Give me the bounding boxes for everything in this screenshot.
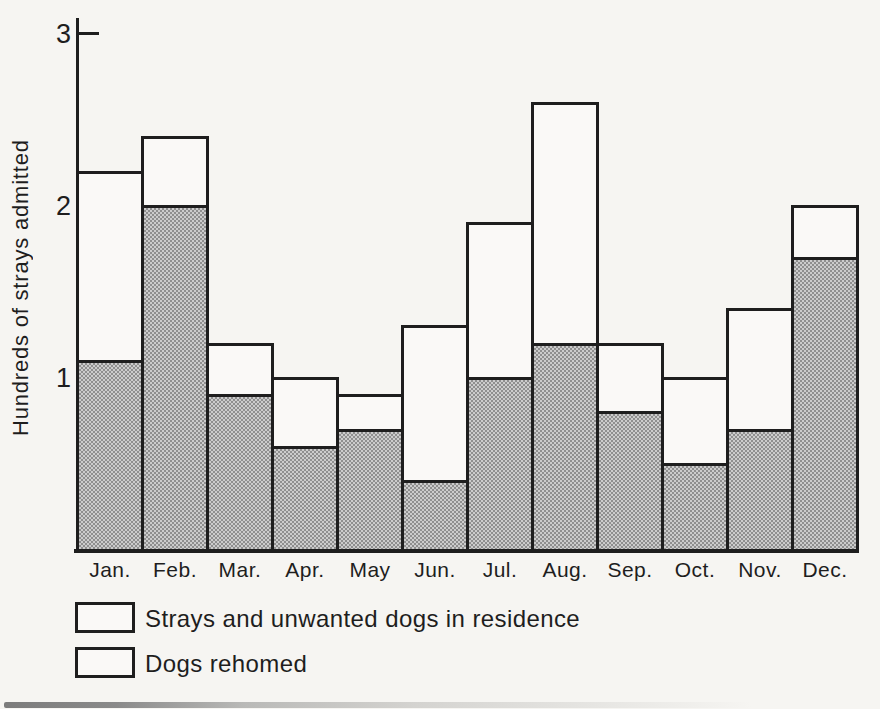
x-label-jun: Jun. (399, 558, 471, 582)
bar-column-aug (531, 102, 599, 552)
y-tick-label-2: 2 (28, 193, 72, 220)
bar-column-jul (466, 222, 534, 552)
bar-segment-rehomed-jun (404, 480, 466, 549)
bar-segment-rehomed-feb (144, 205, 206, 549)
x-label-aug: Aug. (529, 558, 601, 582)
bar-segment-rehomed-apr (274, 446, 336, 549)
bar-column-feb (141, 136, 209, 552)
bar-segment-rehomed-sep (599, 411, 661, 549)
legend-swatch-rehomed (75, 647, 135, 678)
x-label-nov: Nov. (724, 558, 796, 582)
x-label-feb: Feb. (139, 558, 211, 582)
x-label-may: May (334, 558, 406, 582)
x-label-dec: Dec. (789, 558, 861, 582)
x-label-jan: Jan. (74, 558, 146, 582)
bar-column-may (336, 394, 404, 552)
legend-swatch-residence (75, 602, 135, 633)
bar-segment-rehomed-mar (209, 394, 271, 549)
y-tick-3 (78, 32, 99, 35)
bar-column-apr (271, 377, 339, 552)
bar-column-nov (726, 308, 794, 552)
bar-column-mar (206, 343, 274, 552)
page-scan-artifact (4, 702, 752, 708)
bar-segment-rehomed-dec (794, 257, 856, 549)
x-axis-line (74, 549, 859, 553)
bar-column-dec (791, 205, 859, 552)
x-label-oct: Oct. (659, 558, 731, 582)
x-label-mar: Mar. (204, 558, 276, 582)
scanned-chart-page: Hundreds of strays admitted 123 Jan.Feb.… (0, 0, 880, 709)
bar-column-sep (596, 343, 664, 552)
bar-segment-rehomed-jul (469, 377, 531, 549)
x-label-sep: Sep. (594, 558, 666, 582)
bar-column-jan (76, 171, 144, 552)
y-axis-label: Hundreds of strays admitted (8, 100, 34, 475)
bar-segment-rehomed-aug (534, 343, 596, 549)
x-label-apr: Apr. (269, 558, 341, 582)
bar-segment-rehomed-may (339, 429, 401, 549)
bar-column-oct (661, 377, 729, 552)
bar-segment-rehomed-jan (79, 360, 141, 549)
legend-label-residence: Strays and unwanted dogs in residence (145, 605, 580, 633)
y-tick-label-3: 3 (28, 21, 72, 48)
bar-segment-rehomed-nov (729, 429, 791, 549)
bar-column-jun (401, 325, 469, 552)
y-tick-label-1: 1 (28, 365, 72, 392)
x-label-jul: Jul. (464, 558, 536, 582)
bar-segment-rehomed-oct (664, 463, 726, 549)
legend-label-rehomed: Dogs rehomed (145, 650, 307, 678)
